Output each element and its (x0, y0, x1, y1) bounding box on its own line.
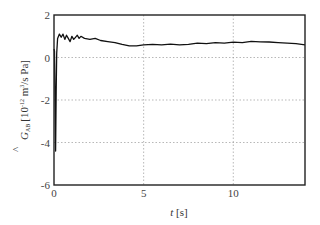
y-axis-ticks: 20-2-4-6 (41, 9, 51, 191)
y-axis-label-unit-pre: [10 (18, 107, 30, 122)
y-axis-label-unit-post: /s Pa] (18, 60, 30, 85)
data-series-line (54, 34, 305, 151)
x-axis-label: t [s] (170, 206, 187, 218)
y-axis-label-symbol: G (18, 132, 30, 140)
x-tick-label: 5 (141, 187, 147, 199)
y-tick-label: 0 (45, 52, 51, 64)
y-tick-label: -4 (41, 137, 51, 149)
svg-text:GAB[10-12 m3/s Pa]: GAB[10-12 m3/s Pa] (18, 60, 31, 140)
line-chart: 20-2-4-6 0510 t [s] GAB[10-12 m3/s Pa] ^ (0, 0, 320, 225)
x-tick-label: 0 (51, 187, 57, 199)
plot-frame (54, 15, 305, 185)
y-axis-label-subscript: AB (25, 124, 31, 132)
y-tick-label: -2 (41, 94, 50, 106)
y-axis-label-exponent: -12 (19, 99, 25, 107)
x-axis-ticks: 0510 (51, 187, 239, 199)
y-axis-label: GAB[10-12 m3/s Pa] ^ (10, 60, 31, 152)
y-tick-label: 2 (45, 9, 51, 21)
y-axis-label-unit-mid: m (18, 87, 30, 99)
y-tick-label: -6 (41, 179, 51, 191)
grid-lines (54, 15, 305, 185)
y-axis-label-hat: ^ (10, 146, 22, 152)
x-axis-label-unit: [s] (173, 206, 187, 218)
x-tick-label: 10 (228, 187, 240, 199)
